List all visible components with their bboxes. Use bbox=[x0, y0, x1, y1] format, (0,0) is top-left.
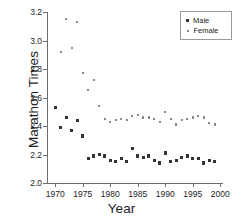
legend-item-female: Female bbox=[185, 26, 227, 35]
data-point-male bbox=[92, 154, 95, 157]
data-point-male bbox=[109, 159, 112, 162]
data-point-male bbox=[81, 134, 84, 137]
x-tick-mark bbox=[165, 183, 166, 187]
data-point-female bbox=[175, 123, 177, 125]
data-point-female bbox=[120, 118, 122, 120]
y-tick-label: 3.0 bbox=[30, 36, 42, 46]
x-tick-label: 1990 bbox=[156, 189, 175, 199]
y-tick-mark bbox=[43, 98, 47, 99]
y-tick-mark bbox=[43, 155, 47, 156]
data-point-female bbox=[186, 118, 188, 120]
y-tick-mark bbox=[43, 41, 47, 42]
data-point-female bbox=[192, 116, 194, 118]
data-point-male bbox=[202, 161, 205, 164]
x-tick-label: 1970 bbox=[46, 189, 65, 199]
data-point-female bbox=[153, 118, 155, 120]
data-point-male bbox=[147, 154, 150, 157]
data-point-female bbox=[214, 123, 216, 125]
data-point-male bbox=[175, 159, 178, 162]
data-point-female bbox=[208, 122, 210, 124]
data-point-female bbox=[76, 21, 78, 23]
x-tick-mark bbox=[83, 183, 84, 187]
data-point-female bbox=[109, 121, 111, 123]
y-tick-label: 2.4 bbox=[30, 121, 42, 131]
y-tick-label: 2.6 bbox=[30, 93, 42, 103]
x-tick-mark bbox=[110, 183, 111, 187]
data-point-male bbox=[169, 160, 172, 163]
data-point-male bbox=[125, 160, 128, 163]
data-point-male bbox=[153, 159, 156, 162]
x-tick-label: 1985 bbox=[128, 189, 147, 199]
data-point-male bbox=[164, 151, 167, 154]
data-point-male bbox=[131, 147, 134, 150]
data-point-male bbox=[87, 157, 90, 160]
y-tick-label: 2.8 bbox=[30, 64, 42, 74]
data-point-male bbox=[98, 153, 101, 156]
data-point-female bbox=[137, 114, 139, 116]
data-point-female bbox=[148, 116, 150, 118]
data-point-female bbox=[98, 105, 100, 107]
data-point-female bbox=[126, 119, 128, 121]
x-axis-line bbox=[47, 183, 223, 184]
data-point-female bbox=[203, 116, 205, 118]
legend-label-female: Female bbox=[194, 26, 219, 35]
data-point-female bbox=[104, 118, 106, 120]
y-tick-label: 3.2 bbox=[30, 7, 42, 17]
data-point-male bbox=[76, 119, 79, 122]
y-axis-line bbox=[47, 12, 48, 183]
x-tick-label: 1975 bbox=[73, 189, 92, 199]
legend-marker-female-icon bbox=[187, 30, 189, 32]
y-tick-mark bbox=[43, 126, 47, 127]
legend-marker-male-icon bbox=[186, 19, 189, 22]
data-point-female bbox=[87, 89, 89, 91]
data-point-male bbox=[59, 126, 62, 129]
marathon-times-scatter-chart: Marathon Times Year 2.02.22.42.62.83.03.… bbox=[0, 0, 243, 223]
data-point-male bbox=[65, 116, 68, 119]
data-point-male bbox=[142, 156, 145, 159]
x-axis-title: Year bbox=[0, 201, 243, 216]
x-tick-label: 1995 bbox=[183, 189, 202, 199]
x-tick-mark bbox=[55, 183, 56, 187]
y-tick-label: 2.2 bbox=[30, 150, 42, 160]
y-tick-mark bbox=[43, 183, 47, 184]
data-point-male bbox=[114, 160, 117, 163]
x-tick-label: 2000 bbox=[211, 189, 230, 199]
data-point-male bbox=[197, 157, 200, 160]
x-tick-mark bbox=[138, 183, 139, 187]
chart-legend: Male Female bbox=[180, 11, 232, 40]
data-point-female bbox=[181, 119, 183, 121]
data-point-female bbox=[93, 79, 95, 81]
data-point-female bbox=[164, 111, 166, 113]
y-tick-mark bbox=[43, 69, 47, 70]
data-point-female bbox=[71, 47, 73, 49]
x-tick-mark bbox=[220, 183, 221, 187]
data-point-male bbox=[54, 106, 57, 109]
data-point-female bbox=[115, 119, 117, 121]
data-point-female bbox=[170, 118, 172, 120]
data-point-male bbox=[136, 154, 139, 157]
data-point-male bbox=[158, 161, 161, 164]
data-point-female bbox=[197, 115, 199, 117]
data-point-male bbox=[186, 154, 189, 157]
data-point-female bbox=[65, 18, 67, 20]
data-point-male bbox=[213, 160, 216, 163]
x-tick-label: 1980 bbox=[101, 189, 120, 199]
data-point-male bbox=[70, 129, 73, 132]
data-point-male bbox=[120, 157, 123, 160]
data-point-male bbox=[208, 159, 211, 162]
data-point-male bbox=[191, 157, 194, 160]
data-point-female bbox=[82, 72, 84, 74]
data-point-male bbox=[103, 154, 106, 157]
legend-item-male: Male bbox=[185, 16, 227, 25]
x-tick-mark bbox=[193, 183, 194, 187]
data-point-female bbox=[60, 51, 62, 53]
data-point-male bbox=[180, 156, 183, 159]
legend-label-male: Male bbox=[193, 16, 209, 25]
data-point-female bbox=[131, 115, 133, 117]
y-tick-mark bbox=[43, 12, 47, 13]
y-tick-label: 2.0 bbox=[30, 178, 42, 188]
data-point-female bbox=[159, 121, 161, 123]
data-point-female bbox=[142, 116, 144, 118]
